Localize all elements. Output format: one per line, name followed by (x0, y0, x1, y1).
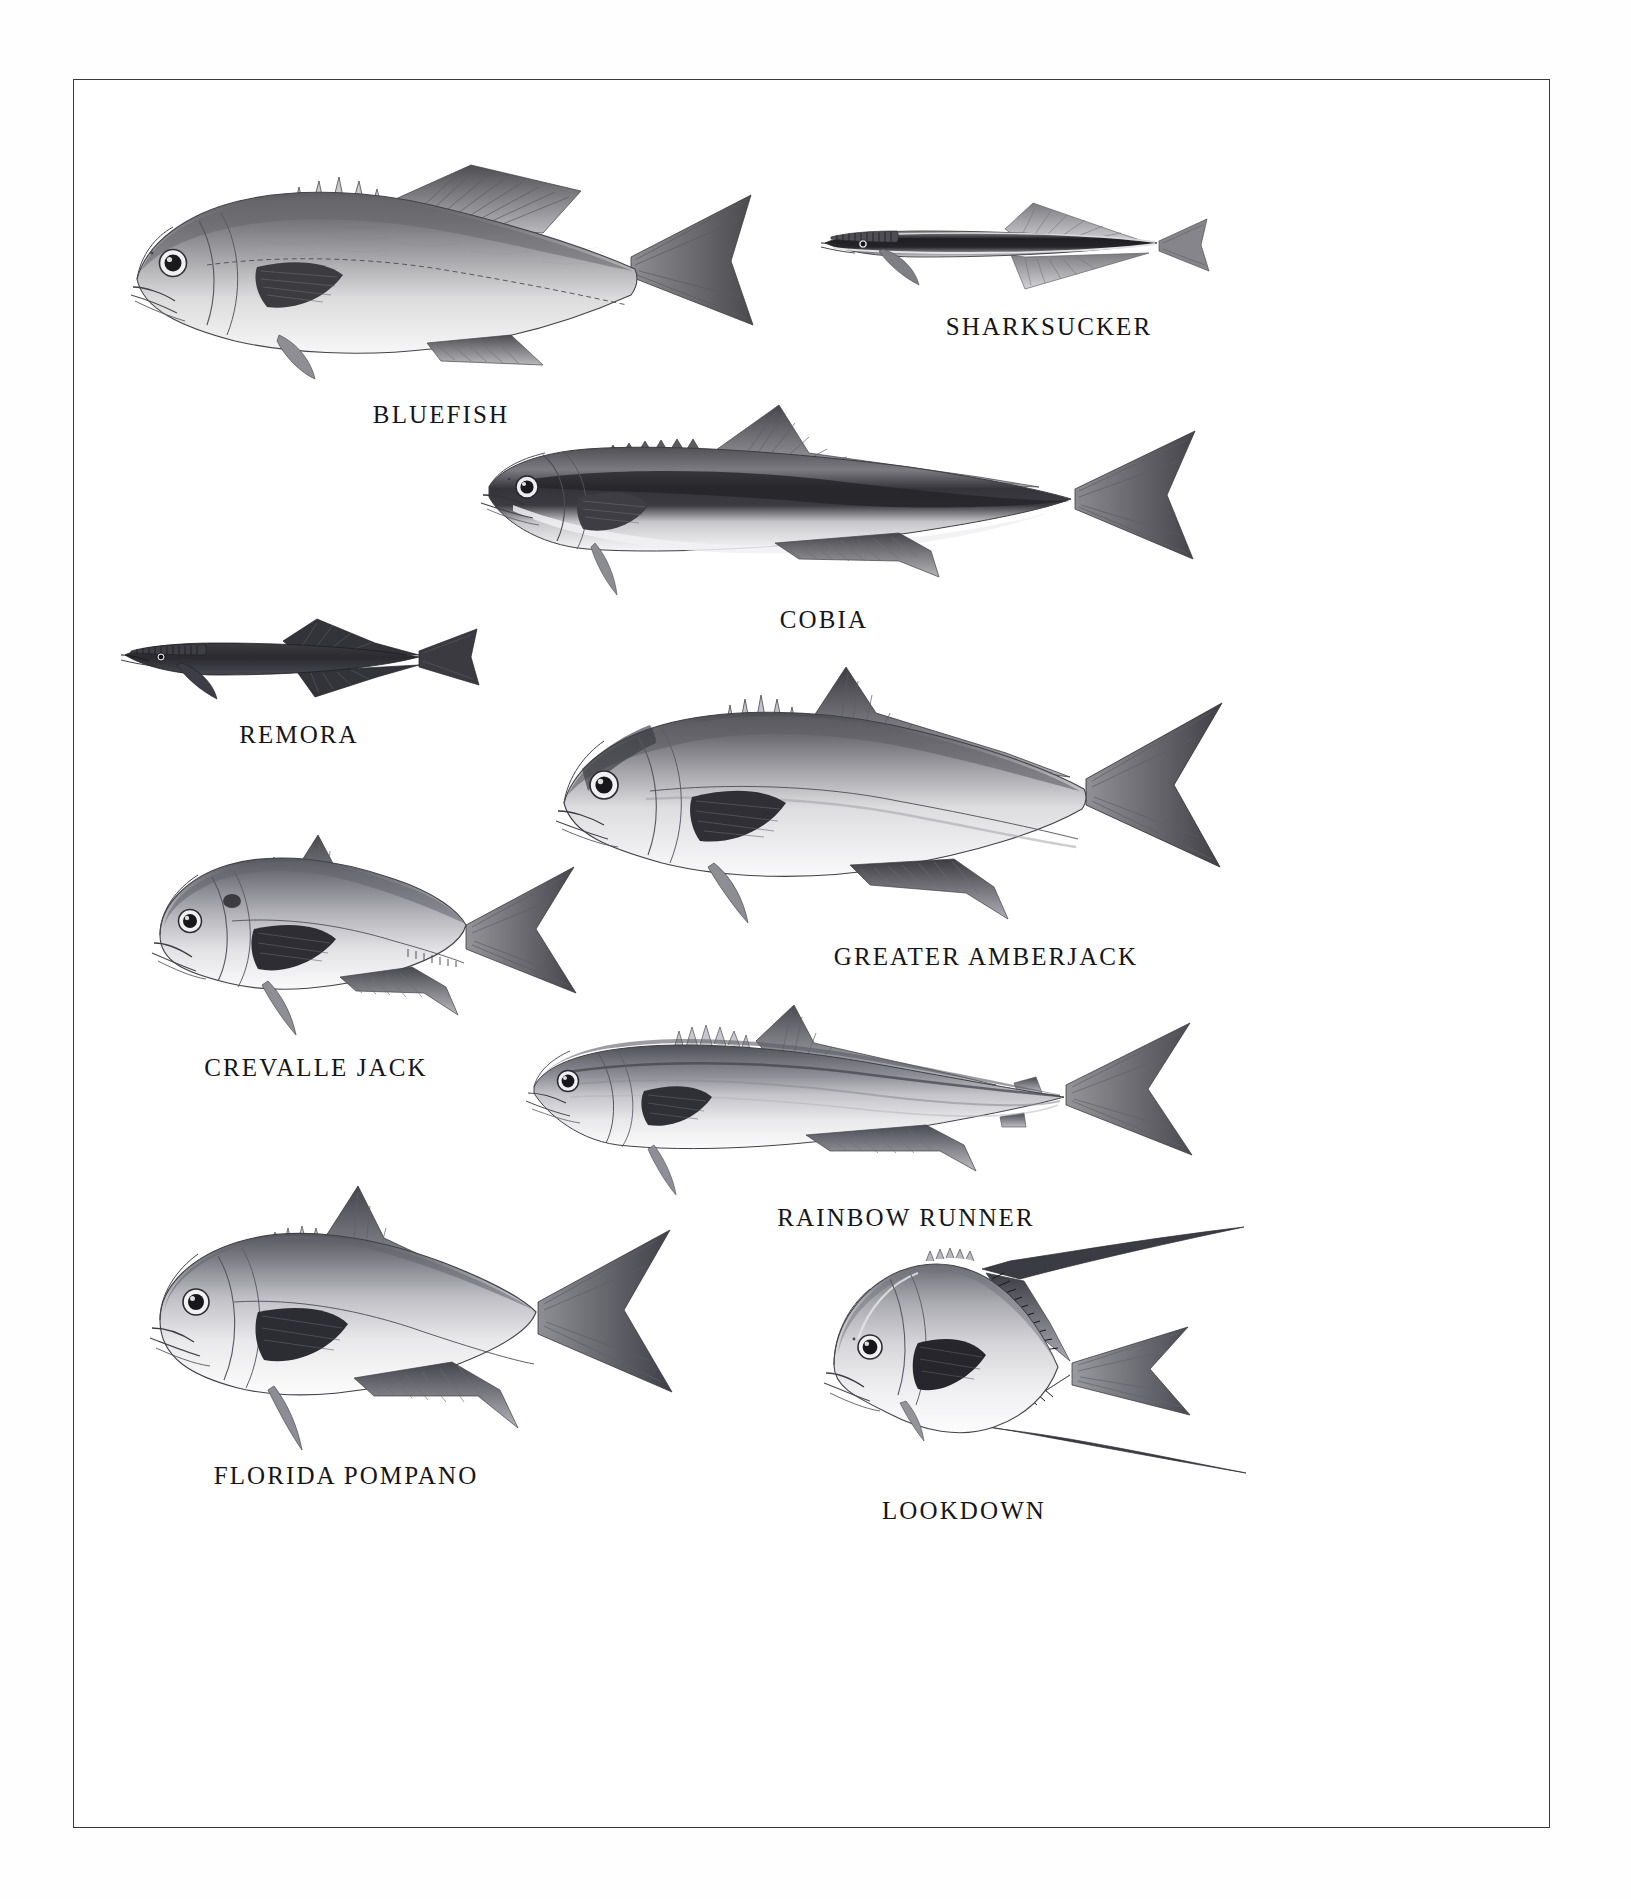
greater-amberjack-illustration (546, 651, 1236, 931)
species-entry-bluefish: BLUEFISH (111, 129, 771, 429)
species-label-sharksucker: SHARKSUCKER (924, 313, 1174, 341)
species-entry-lookdown: LOOKDOWN (814, 1215, 1284, 1515)
species-label-lookdown: LOOKDOWN (824, 1497, 1104, 1525)
illustration-plate-border: BLUEFISH (73, 79, 1550, 1828)
rainbow-runner-illustration (526, 1001, 1206, 1196)
species-entry-sharksucker: SHARKSUCKER (819, 193, 1239, 353)
species-entry-remora: REMORA (119, 613, 499, 763)
cobia-illustration (479, 401, 1209, 601)
species-entry-cobia: COBIA (479, 401, 1219, 641)
crevalle-jack-illustration (146, 829, 586, 1044)
species-entry-greater-amberjack: GREATER AMBERJACK (546, 651, 1246, 981)
species-label-cobia: COBIA (734, 606, 914, 634)
florida-pompano-illustration (146, 1180, 686, 1455)
species-label-greater-amberjack: GREATER AMBERJACK (786, 943, 1186, 971)
lookdown-illustration (814, 1215, 1254, 1480)
remora-illustration (119, 613, 489, 713)
species-entry-florida-pompano: FLORIDA POMPANO (146, 1180, 706, 1500)
species-label-remora: REMORA (199, 721, 399, 749)
sharksucker-illustration (819, 193, 1219, 303)
species-label-crevalle-jack: CREVALLE JACK (156, 1054, 476, 1082)
bluefish-illustration (111, 129, 771, 394)
species-label-florida-pompano: FLORIDA POMPANO (146, 1462, 546, 1490)
